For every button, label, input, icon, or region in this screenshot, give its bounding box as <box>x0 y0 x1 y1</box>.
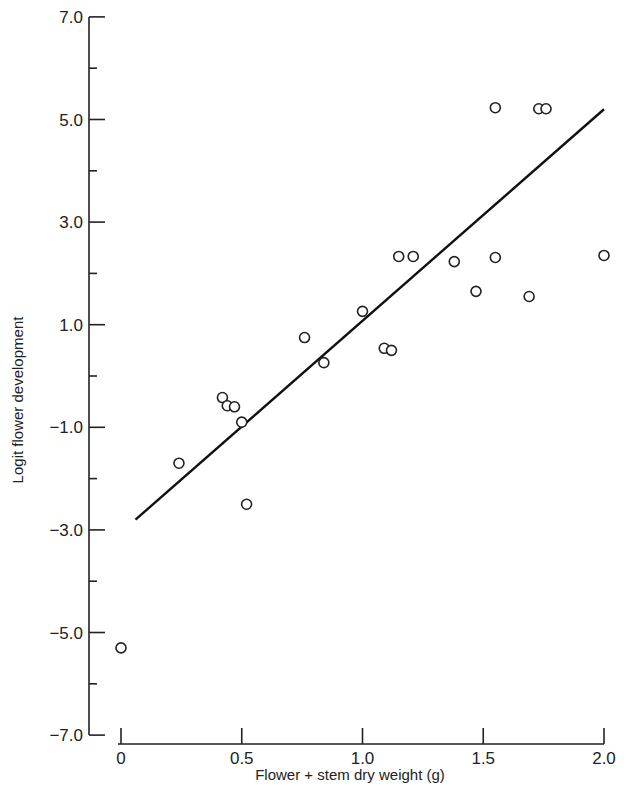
data-point <box>242 499 252 509</box>
fit-line-segment <box>135 109 604 519</box>
y-tick-label: −1.0 <box>49 418 83 437</box>
y-tick-label: 3.0 <box>59 213 83 232</box>
data-point <box>174 458 184 468</box>
y-tick-label: −3.0 <box>49 521 83 540</box>
y-axis: 7.05.03.01.0−1.0−3.0−5.0−7.0 <box>49 8 105 745</box>
y-axis-title: Logit flower development <box>9 316 26 484</box>
x-tick-label: 1.5 <box>471 749 495 768</box>
data-point <box>541 104 551 114</box>
x-axis: 00.51.01.52.0 <box>116 728 616 768</box>
data-point <box>599 250 609 260</box>
y-tick-label: 1.0 <box>59 316 83 335</box>
data-point <box>524 291 534 301</box>
y-tick-label: 7.0 <box>59 8 83 27</box>
data-point <box>230 402 240 412</box>
data-point <box>319 358 329 368</box>
data-point <box>394 251 404 261</box>
data-point <box>358 306 368 316</box>
scatter-chart: 7.05.03.01.0−1.0−3.0−5.0−7.0 00.51.01.52… <box>0 0 636 794</box>
y-tick-label: −7.0 <box>49 726 83 745</box>
data-point <box>300 333 310 343</box>
data-point <box>386 345 396 355</box>
y-tick-label: −5.0 <box>49 624 83 643</box>
data-point <box>490 103 500 113</box>
data-point <box>408 251 418 261</box>
data-point <box>116 643 126 653</box>
x-tick-label: 0.5 <box>230 749 254 768</box>
data-point <box>471 286 481 296</box>
x-axis-title: Flower + stem dry weight (g) <box>255 766 445 783</box>
data-point <box>490 252 500 262</box>
regression-line <box>135 109 604 519</box>
data-points <box>116 103 609 653</box>
data-point <box>449 257 459 267</box>
data-point <box>237 417 247 427</box>
x-tick-label: 2.0 <box>592 749 616 768</box>
y-tick-label: 5.0 <box>59 111 83 130</box>
x-tick-label: 0 <box>116 749 125 768</box>
